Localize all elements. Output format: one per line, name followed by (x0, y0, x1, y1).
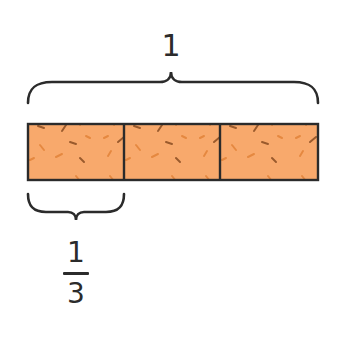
part-brace (28, 194, 124, 220)
fraction-bar (28, 124, 318, 180)
fraction-numerator: 1 (60, 238, 92, 268)
whole-brace (28, 72, 318, 103)
part-fraction-label: 1 3 (60, 238, 92, 309)
fraction-bar-line (63, 272, 89, 275)
fraction-denominator: 3 (60, 279, 92, 309)
whole-label: 1 (156, 30, 186, 62)
